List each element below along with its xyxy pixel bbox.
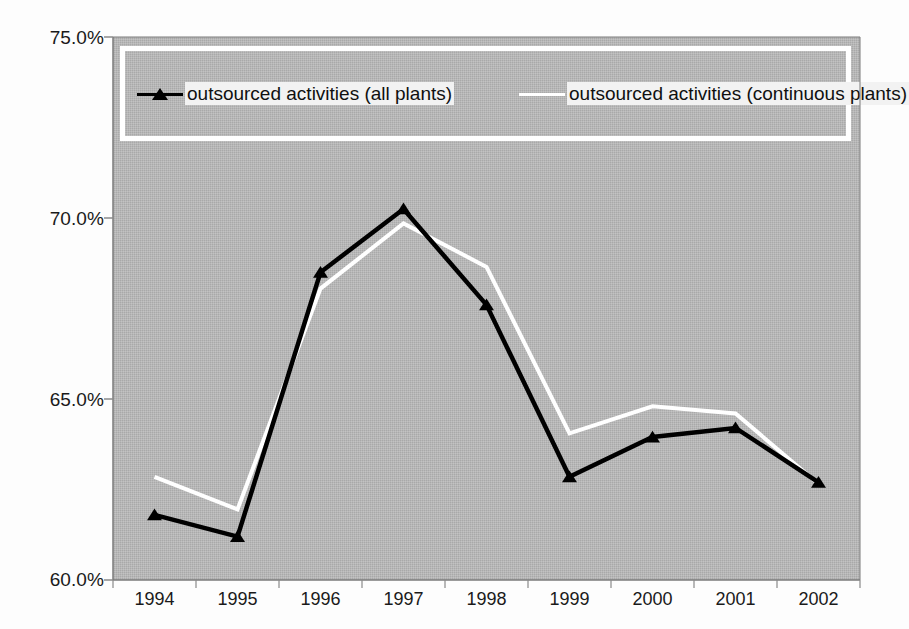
x-axis-tick-label: 1995 [193, 589, 283, 610]
legend-label: outsourced activities (all plants) [185, 82, 454, 106]
y-axis-tick-label: 70.0% [4, 208, 104, 230]
y-axis-labels: 75.0% 70.0% 65.0% 60.0% [0, 0, 104, 629]
x-axis-tick-label: 1997 [359, 589, 449, 610]
legend-label: outsourced activities (continuous plants… [567, 82, 909, 106]
series-marker [396, 203, 411, 215]
y-axis-tick-label: 65.0% [4, 389, 104, 411]
x-axis-tick-label: 1999 [525, 589, 615, 610]
x-axis-labels: 199419951996199719981999200020012002 [113, 589, 860, 619]
legend-entry-all-plants: outsourced activities (all plants) [137, 82, 454, 106]
x-axis-tick-label: 1994 [110, 589, 200, 610]
series-line [155, 209, 819, 537]
legend-key-icon [137, 86, 183, 102]
chart-legend: outsourced activities (all plants) outso… [120, 46, 851, 141]
series-line [155, 223, 819, 509]
x-axis-tick-label: 1996 [276, 589, 366, 610]
plot-area: outsourced activities (all plants) outso… [113, 37, 860, 580]
x-axis-tick-label: 2001 [691, 589, 781, 610]
legend-key-icon [519, 86, 565, 102]
x-axis-tick-label: 2002 [774, 589, 864, 610]
y-axis-tick-label: 60.0% [4, 569, 104, 591]
x-axis-tick-label: 2000 [608, 589, 698, 610]
y-axis-tick-label: 75.0% [4, 27, 104, 49]
legend-entry-continuous-plants: outsourced activities (continuous plants… [519, 82, 909, 106]
x-axis-tick-label: 1998 [442, 589, 532, 610]
